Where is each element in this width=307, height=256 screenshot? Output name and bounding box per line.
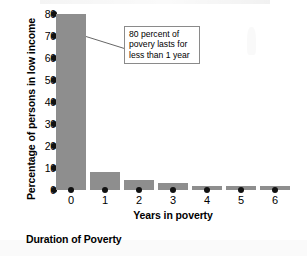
bar-column [90, 14, 120, 190]
x-tick-marker [204, 187, 210, 193]
x-tick-marker [102, 187, 108, 193]
figure-caption: Duration of Poverty [26, 233, 122, 245]
bar-column [226, 14, 256, 190]
chart-figure: Percentage of persons in low income 0102… [0, 0, 307, 256]
y-axis-title: Percentage of persons in low income [25, 16, 37, 202]
x-tick-label: 5 [226, 194, 256, 206]
x-tick-label: 1 [90, 194, 120, 206]
x-tick-marker [68, 187, 74, 193]
x-tick-marker [272, 187, 278, 193]
annotation-line-1: 80 percent of [129, 29, 195, 39]
bar [56, 14, 86, 190]
annotation-line-3: less than 1 year [129, 50, 195, 60]
x-tick-label: 2 [124, 194, 154, 206]
x-tick-label: 3 [158, 194, 188, 206]
scan-artifact-top [40, 0, 270, 4]
x-tick-label: 6 [260, 194, 290, 206]
x-tick-label: 0 [56, 194, 86, 206]
x-tick-marker [136, 187, 142, 193]
annotation-callout: 80 percent of povery lasts for less than… [124, 26, 200, 64]
x-tick-marker [170, 187, 176, 193]
x-tick-label: 4 [192, 194, 222, 206]
x-tick-marker [238, 187, 244, 193]
annotation-line-2: povery lasts for [129, 39, 195, 49]
bar-column [56, 14, 86, 190]
bar-column [260, 14, 290, 190]
x-axis-title: Years in poverty [56, 209, 290, 221]
